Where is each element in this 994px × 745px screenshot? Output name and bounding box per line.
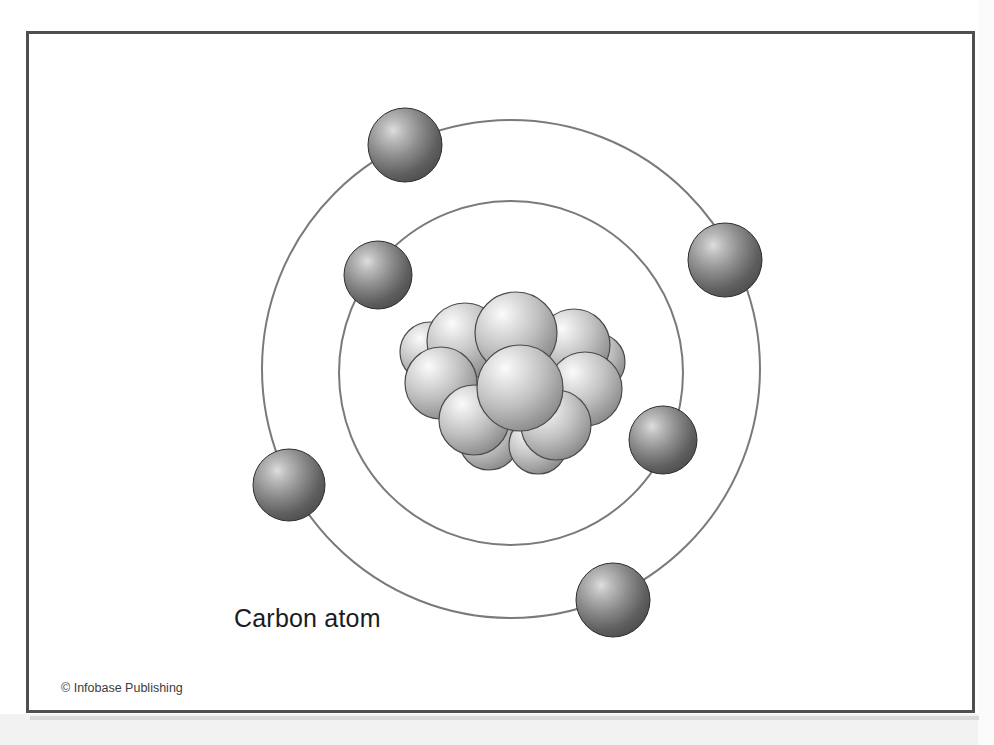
figure-root: Carbon atom © Infobase Publishing bbox=[0, 0, 994, 745]
inner-electron-1 bbox=[344, 241, 412, 309]
inner-electron-2 bbox=[629, 406, 697, 474]
atom-diagram bbox=[0, 0, 994, 745]
page-title: Carbon atom bbox=[234, 604, 381, 633]
copyright-credit: © Infobase Publishing bbox=[61, 681, 183, 695]
nucleon bbox=[477, 345, 563, 431]
nucleus-group bbox=[400, 292, 625, 474]
outer-electron-2 bbox=[688, 223, 762, 297]
outer-electron-3 bbox=[253, 449, 325, 521]
outer-electron-4 bbox=[576, 563, 650, 637]
outer-electron-1 bbox=[368, 108, 442, 182]
